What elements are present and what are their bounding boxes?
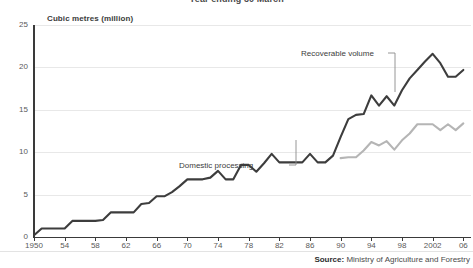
series-lines (0, 0, 473, 268)
annotation-domestic-processing: Domestic processing (179, 161, 253, 170)
chart-figure: Year ending 30 March Cubic metres (milli… (0, 0, 473, 268)
series-line (341, 123, 464, 158)
source-prefix: Source: (314, 255, 344, 264)
annotation-leader-line (388, 53, 395, 92)
source-text: Ministry of Agriculture and Forestry (344, 255, 470, 264)
annotation-leader-line (289, 140, 296, 165)
annotation-recoverable-volume: Recoverable volume (301, 49, 374, 58)
source-divider (0, 251, 473, 252)
source-note: Source: Ministry of Agriculture and Fore… (314, 255, 470, 264)
